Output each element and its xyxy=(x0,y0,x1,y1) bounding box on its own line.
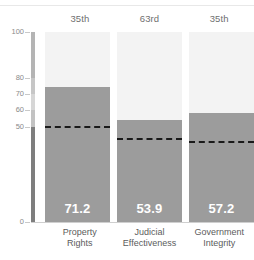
y-tick-label-50: 50 xyxy=(2,123,24,131)
category-label-property-rights-line2: Rights xyxy=(45,238,115,249)
category-label-judicial-effectiveness: Judicial Effectiveness xyxy=(115,227,185,249)
scale-segment-60-50 xyxy=(31,110,35,127)
scale-segment-70-60 xyxy=(31,94,35,110)
y-tick-label-100: 100 xyxy=(2,28,24,36)
chart-container: 35th 63rd 35th 100 80 70 60 50 0 71.2 xyxy=(0,0,254,260)
category-label-government-integrity-line2: Integrity xyxy=(184,238,254,249)
bar-track-judicial-effectiveness[interactable]: 53.9 xyxy=(117,32,182,222)
category-label-judicial-effectiveness-line1: Judicial xyxy=(115,227,185,238)
category-label-judicial-effectiveness-line2: Effectiveness xyxy=(115,238,185,249)
scale-segment-top xyxy=(31,32,35,78)
y-tick-label-0: 0 xyxy=(2,218,24,226)
scale-segment-bottom xyxy=(31,127,35,222)
y-tick-mark-100 xyxy=(25,32,30,33)
y-tick-mark-0 xyxy=(25,222,30,223)
y-tick-mark-70 xyxy=(25,94,30,95)
y-tick-label-70: 70 xyxy=(2,90,24,98)
category-label-government-integrity: Government Integrity xyxy=(184,227,254,249)
category-label-government-integrity-line1: Government xyxy=(184,227,254,238)
bar-fill-property-rights: 71.2 xyxy=(45,87,110,222)
bar-value-government-integrity: 57.2 xyxy=(189,201,254,216)
y-axis-scale-bar xyxy=(31,32,35,222)
y-tick-mark-50 xyxy=(25,127,30,128)
y-tick-label-80: 80 xyxy=(2,74,24,82)
bar-fill-government-integrity: 57.2 xyxy=(189,113,254,222)
plot-area: 100 80 70 60 50 0 71.2 xyxy=(0,0,254,260)
bar-value-property-rights: 71.2 xyxy=(45,201,110,216)
category-label-row: Property Rights Judicial Effectiveness G… xyxy=(45,227,254,249)
y-tick-label-60: 60 xyxy=(2,106,24,114)
reference-line-property-rights xyxy=(45,126,110,128)
y-tick-mark-60 xyxy=(25,110,30,111)
reference-line-government-integrity xyxy=(189,141,254,143)
bar-track-property-rights[interactable]: 71.2 xyxy=(45,32,110,222)
category-label-property-rights-line1: Property xyxy=(45,227,115,238)
reference-line-judicial-effectiveness xyxy=(117,138,182,140)
bar-value-judicial-effectiveness: 53.9 xyxy=(117,201,182,216)
scale-segment-80-70 xyxy=(31,78,35,94)
bar-track-government-integrity[interactable]: 57.2 xyxy=(189,32,254,222)
x-axis-baseline xyxy=(31,222,254,223)
category-label-property-rights: Property Rights xyxy=(45,227,115,249)
y-tick-mark-80 xyxy=(25,78,30,79)
bar-fill-judicial-effectiveness: 53.9 xyxy=(117,120,182,222)
